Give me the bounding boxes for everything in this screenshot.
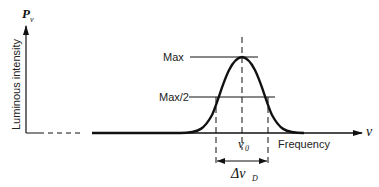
x-axis-symbol: ν	[366, 124, 373, 139]
gaussian-curve	[92, 57, 304, 133]
y-axis-label: Luminous intensity	[10, 38, 22, 130]
half-max-label: Max/2	[159, 91, 189, 103]
center-sub: 0	[245, 144, 249, 153]
doppler-profile-diagram: P ν Luminous intensity Max Max/2 ν 0 Fre…	[0, 0, 379, 187]
center-symbol: ν	[238, 136, 244, 151]
width-sub: D	[251, 174, 258, 183]
width-symbol: Δν	[230, 166, 246, 181]
y-axis-symbol-sub: ν	[30, 15, 34, 24]
max-label: Max	[163, 51, 184, 63]
x-axis-label: Frequency	[278, 138, 330, 150]
